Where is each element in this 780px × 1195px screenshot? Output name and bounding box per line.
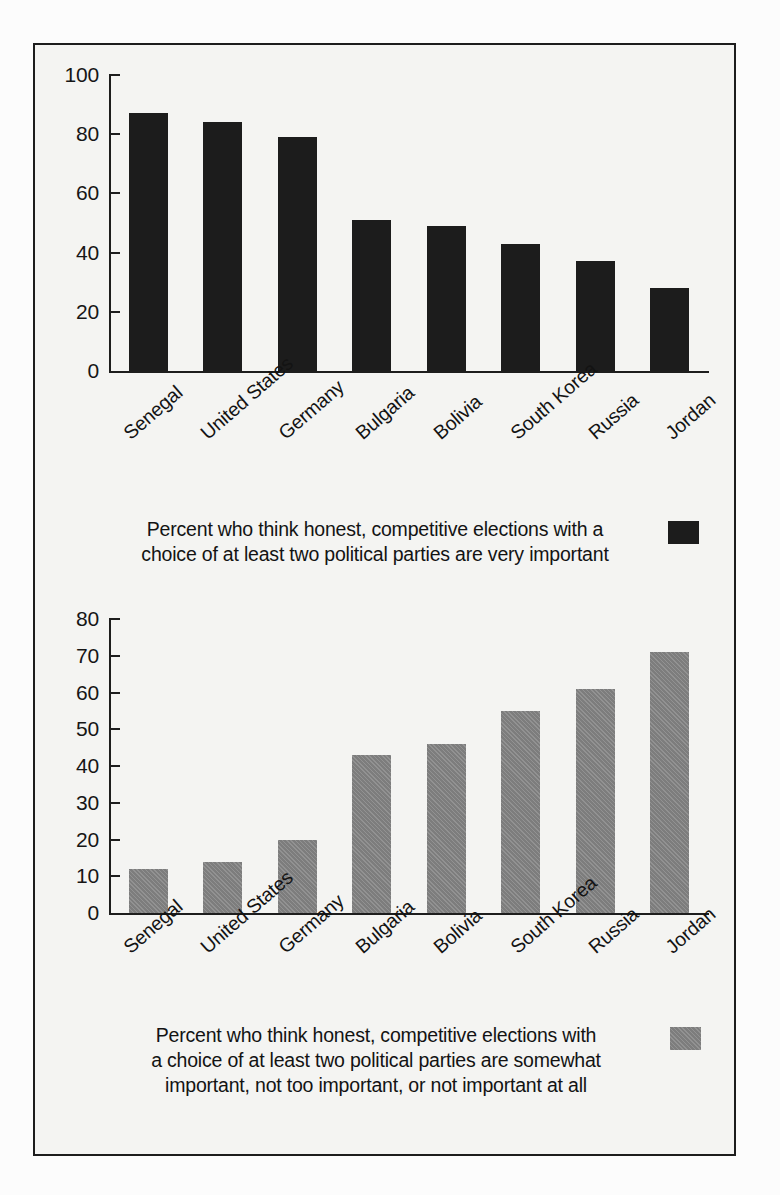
- bottom-caption-line-3: important, not too important, or not imp…: [91, 1073, 661, 1098]
- y-tick-label: 100: [65, 63, 99, 87]
- top-caption-line-1: Percent who think honest, competitive el…: [95, 517, 655, 542]
- top-chart-x-axis-labels: SenegalUnited StatesGermanyBulgariaBoliv…: [111, 427, 731, 527]
- y-tick-label: 50: [76, 717, 99, 741]
- bar: [576, 261, 615, 371]
- y-tick-label: 10: [76, 864, 99, 888]
- y-tick-label: 60: [76, 181, 99, 205]
- figure-page: 020406080100 SenegalUnited StatesGermany…: [0, 0, 780, 1195]
- y-tick-label: 0: [88, 359, 99, 383]
- bar: [129, 113, 168, 371]
- bar: [278, 137, 317, 371]
- y-tick-mark: [109, 875, 120, 877]
- top-chart-y-axis: 020406080100: [53, 57, 99, 409]
- bar: [650, 652, 689, 913]
- y-tick-mark: [109, 192, 120, 194]
- bar: [650, 288, 689, 371]
- y-tick-mark: [109, 802, 120, 804]
- y-tick-label: 70: [76, 644, 99, 668]
- y-axis-line: [109, 75, 111, 371]
- y-tick-mark: [109, 74, 120, 76]
- top-caption-line-2: choice of at least two political parties…: [95, 542, 655, 567]
- bottom-chart-plot-area: 01020304050607080: [53, 607, 713, 947]
- y-tick-label: 40: [76, 754, 99, 778]
- y-tick-label: 60: [76, 681, 99, 705]
- x-axis-line: [109, 371, 709, 373]
- bar: [352, 220, 391, 371]
- y-tick-label: 0: [88, 901, 99, 925]
- dark-swatch: [668, 521, 699, 544]
- figure-frame: 020406080100 SenegalUnited StatesGermany…: [33, 43, 736, 1156]
- bottom-chart-bars: [111, 619, 707, 913]
- y-tick-label: 20: [76, 828, 99, 852]
- y-tick-label: 30: [76, 791, 99, 815]
- bottom-caption-line-2: a choice of at least two political parti…: [91, 1048, 661, 1073]
- gray-swatch: [670, 1027, 701, 1050]
- bar: [427, 226, 466, 371]
- y-tick-mark: [109, 655, 120, 657]
- top-chart-caption: Percent who think honest, competitive el…: [95, 517, 655, 567]
- y-tick-mark: [109, 692, 120, 694]
- y-tick-label: 80: [76, 607, 99, 631]
- y-tick-label: 40: [76, 241, 99, 265]
- bar: [501, 711, 540, 913]
- y-tick-mark: [109, 133, 120, 135]
- y-tick-label: 80: [76, 122, 99, 146]
- y-tick-mark: [109, 618, 120, 620]
- y-tick-mark: [109, 252, 120, 254]
- bottom-chart-caption: Percent who think honest, competitive el…: [91, 1023, 661, 1098]
- bar: [427, 744, 466, 913]
- y-tick-mark: [109, 311, 120, 313]
- y-tick-mark: [109, 728, 120, 730]
- y-tick-label: 20: [76, 300, 99, 324]
- top-chart-bars: [111, 75, 707, 371]
- bottom-caption-line-1: Percent who think honest, competitive el…: [91, 1023, 661, 1048]
- y-tick-mark: [109, 765, 120, 767]
- bar: [203, 122, 242, 371]
- y-tick-mark: [109, 839, 120, 841]
- bar: [501, 244, 540, 371]
- bottom-chart-y-axis: 01020304050607080: [53, 607, 99, 947]
- top-chart-plot-area: 020406080100: [53, 57, 713, 409]
- bar: [352, 755, 391, 913]
